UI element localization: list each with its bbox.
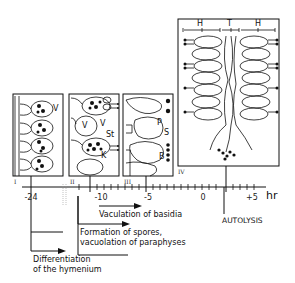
panel-number-iii: III xyxy=(124,178,131,185)
label-vacuole: V xyxy=(100,119,105,128)
panel-i-cells xyxy=(15,96,53,176)
label-hymenium-right: H xyxy=(255,19,261,28)
axis-unit: hr xyxy=(266,189,278,202)
label-nucleus: K xyxy=(101,151,106,160)
label-sterigma: St xyxy=(106,130,114,139)
label-spore: S xyxy=(164,128,169,137)
label-paraphysis: P xyxy=(157,118,162,127)
panel-number-ii: II xyxy=(70,178,75,185)
spore-formation-label-line2: vacuolation of paraphyses xyxy=(80,238,186,247)
autolysis-label: AUTOLYSIS xyxy=(222,216,263,225)
tick-label: +5 xyxy=(246,193,258,202)
panel-number-i: I xyxy=(14,178,16,185)
vacuolation-basidia-label: Vaculation of basidia xyxy=(99,210,182,219)
panel-iii-cells xyxy=(126,98,164,177)
label-vacuole: V xyxy=(82,121,87,130)
panel-iv-cells xyxy=(183,28,276,152)
tick-label: -5 xyxy=(144,193,152,202)
label-trama: T xyxy=(227,19,232,28)
differentiation-label-line1: Differentiation xyxy=(33,255,91,264)
label-vacuole: V xyxy=(53,104,58,113)
tick-label: 0 xyxy=(200,193,205,202)
tick-label: -10 xyxy=(94,193,107,202)
differentiation-label-line2: of the hymenium xyxy=(33,265,102,274)
label-basidium: B xyxy=(159,152,165,161)
panel-number-iv: IV xyxy=(178,168,185,175)
spore-formation-label-line1: Formation of spores, xyxy=(80,228,162,237)
tick-label: -24 xyxy=(24,193,37,202)
label-hymenium-left: H xyxy=(197,19,203,28)
